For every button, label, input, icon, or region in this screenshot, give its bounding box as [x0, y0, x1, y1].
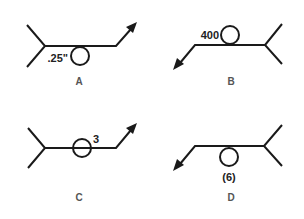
tail-fork: [27, 25, 45, 67]
weld-note: .25": [47, 52, 68, 64]
symbol-label: B: [227, 76, 234, 87]
tail-fork: [265, 24, 282, 64]
symbol-label: A: [75, 76, 82, 87]
symbol-label: C: [75, 192, 82, 203]
weld-circle: [220, 148, 238, 166]
symbol-label: D: [227, 192, 234, 203]
reference-leader-line: [45, 29, 131, 46]
weld-circle: [221, 26, 239, 44]
symbol-a: .25" A: [27, 22, 137, 87]
tail-fork: [28, 128, 45, 168]
tail-fork: [264, 125, 282, 166]
reference-leader-line: [180, 45, 265, 63]
weld-note: (6): [222, 171, 236, 183]
weld-circle: [71, 47, 89, 65]
symbol-c: 3 C: [28, 123, 137, 203]
weld-note: 3: [93, 133, 99, 145]
reference-leader-line: [45, 130, 131, 148]
symbol-d: (6) D: [173, 125, 282, 203]
welding-symbols-diagram: .25" A 400 B 3 C (6) D: [0, 0, 304, 219]
weld-note: 400: [201, 29, 219, 41]
arrowhead-icon: [126, 123, 137, 134]
symbol-b: 400 B: [173, 24, 282, 87]
